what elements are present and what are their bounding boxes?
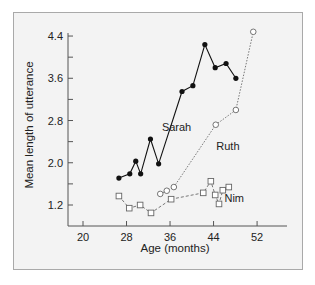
- mlu-line-chart: 1.22.02.83.64.42028364452Age (months)Mea…: [0, 0, 315, 285]
- data-point-ruth: [233, 107, 239, 113]
- data-point-sarah: [133, 159, 138, 164]
- series-line-ruth: [160, 32, 253, 194]
- data-point-nim: [216, 201, 222, 207]
- data-point-sarah: [127, 171, 132, 176]
- data-point-sarah: [190, 83, 195, 88]
- data-point-nim: [212, 192, 218, 198]
- data-point-ruth: [157, 191, 163, 197]
- x-tick-label: 28: [120, 231, 132, 243]
- y-tick-label: 2.8: [48, 115, 63, 127]
- data-point-sarah: [233, 76, 238, 81]
- series-label-sarah: Sarah: [162, 121, 191, 133]
- data-point-ruth: [250, 29, 256, 35]
- data-point-sarah: [138, 171, 143, 176]
- data-point-nim: [116, 193, 122, 199]
- data-point-sarah: [148, 136, 153, 141]
- y-axis-title: Mean length of utterance: [23, 61, 35, 188]
- axes: 1.22.02.83.64.42028364452Age (months)Mea…: [23, 30, 287, 254]
- data-point-nim: [208, 178, 214, 184]
- x-tick-label: 52: [251, 231, 263, 243]
- data-point-sarah: [116, 175, 121, 180]
- series-label-nim: Nim: [224, 192, 244, 204]
- series-label-ruth: Ruth: [216, 140, 239, 152]
- data-point-nim: [148, 210, 154, 216]
- data-point-sarah: [213, 65, 218, 70]
- data-point-ruth: [213, 122, 219, 128]
- x-axis-title: Age (months): [140, 242, 209, 254]
- data-point-sarah: [223, 61, 228, 66]
- data-point-nim: [168, 196, 174, 202]
- y-tick-label: 4.4: [48, 30, 63, 42]
- y-tick-label: 2.0: [48, 157, 63, 169]
- data-point-nim: [126, 205, 132, 211]
- y-tick-label: 3.6: [48, 72, 63, 84]
- data-point-nim: [226, 184, 232, 190]
- data-point-sarah: [202, 42, 207, 47]
- y-tick-label: 1.2: [48, 199, 63, 211]
- data-point-nim: [137, 202, 143, 208]
- x-tick-label: 20: [77, 231, 89, 243]
- data-point-ruth: [164, 188, 170, 194]
- data-point-sarah: [179, 89, 184, 94]
- series-line-sarah: [119, 44, 236, 178]
- data-point-sarah: [156, 161, 161, 166]
- data-point-ruth: [171, 184, 177, 190]
- data-point-nim: [200, 190, 206, 196]
